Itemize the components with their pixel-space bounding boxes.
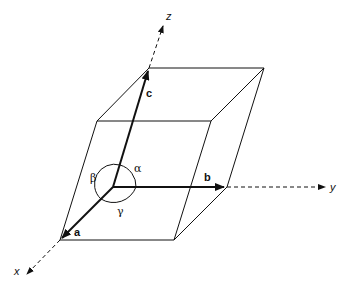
angle-arcs [94, 164, 136, 202]
gamma-label: γ [117, 205, 124, 218]
cell-edges [60, 68, 264, 240]
x-axis [27, 240, 60, 274]
beta-label: β [90, 172, 96, 185]
y-axis-label: y [329, 181, 337, 193]
unit-cell-diagram: z y x c b a α β γ [0, 0, 351, 287]
vector-a [62, 187, 113, 238]
vector-a-label: a [74, 226, 81, 238]
z-axis [149, 26, 163, 68]
x-axis-label: x [13, 265, 20, 277]
z-axis-label: z [165, 10, 172, 22]
vector-b-label: b [204, 171, 211, 183]
vector-c [113, 71, 148, 187]
vector-c-label: c [146, 87, 152, 99]
axes [27, 26, 325, 274]
alpha-label: α [134, 162, 142, 175]
